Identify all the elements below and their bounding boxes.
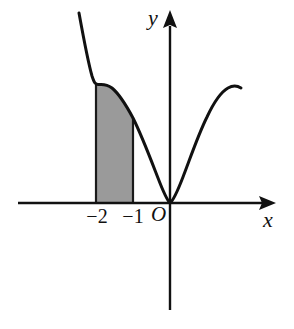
- math-figure: y x O −2 −1: [0, 0, 294, 329]
- y-axis-arrowhead: [163, 10, 177, 28]
- x-axis-label: x: [263, 209, 273, 231]
- x-tick-label-neg2: −2: [82, 206, 112, 226]
- x-tick-label-neg1: −1: [118, 206, 148, 226]
- origin-label: O: [151, 204, 166, 225]
- plot-canvas: [0, 0, 294, 329]
- shaded-region: [96, 85, 133, 203]
- y-axis-label: y: [148, 7, 158, 29]
